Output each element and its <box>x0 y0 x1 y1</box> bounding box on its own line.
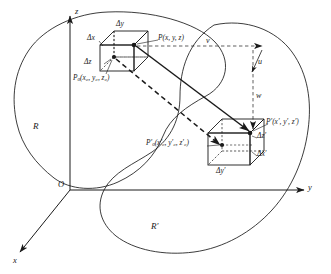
image-delta-x-label: Δx′ <box>257 150 267 158</box>
source-delta-x-label: Δx <box>87 34 95 42</box>
source-region-outline <box>14 12 225 189</box>
mapping-arrow-P-to-Pprime <box>136 46 249 131</box>
source-base-point-dot <box>112 55 116 59</box>
image-region-outline <box>100 23 309 253</box>
image-base-point-dot <box>220 143 224 147</box>
figure-canvas: z y x O R R′ Δy Δx Δz P(x, y, z) P0(x₀, … <box>0 0 331 274</box>
image-point-coords: (x′, y′, z′) <box>272 117 299 126</box>
region-label-R: R <box>33 122 39 131</box>
source-point-label: P(x, y, z) <box>158 34 184 41</box>
image-base-point-leader <box>207 145 219 146</box>
vector-label-v: v <box>206 37 210 45</box>
image-point-label: P′(x′, y′, z′) <box>266 118 299 125</box>
source-delta-y-label: Δy <box>116 20 124 28</box>
image-base-point-coords: (x′₀, y′₀, z′₀) <box>155 138 189 147</box>
vector-label-w: w <box>256 92 261 100</box>
axis-label-z: z <box>75 7 78 16</box>
axis-label-x: x <box>13 256 17 265</box>
source-box-interior-guides <box>114 31 148 57</box>
source-base-point-coords: (x₀, y₀, z₀) <box>80 73 109 82</box>
vector-label-u: u <box>258 58 262 66</box>
image-delta-z-label: Δz′ <box>257 132 266 140</box>
source-point-leader <box>137 40 158 44</box>
axis-label-y: y <box>308 183 312 192</box>
source-point-coords: (x, y, z) <box>163 33 184 42</box>
axis-label-origin: O <box>58 180 64 189</box>
mapping-arrow-P0-to-P0prime <box>116 59 220 145</box>
source-delta-z-label: Δz <box>84 58 91 66</box>
source-base-point-label: P0(x₀, y₀, z₀) <box>73 74 110 82</box>
image-delta-y-label: Δy′ <box>216 167 226 175</box>
region-label-R-prime: R′ <box>151 222 158 231</box>
image-base-point-label: P′0(x′₀, y′₀, z′₀) <box>146 139 189 147</box>
